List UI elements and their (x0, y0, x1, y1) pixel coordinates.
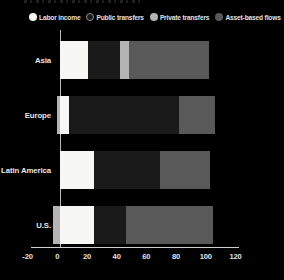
x-tick-label: 0 (46, 252, 68, 261)
x-tick-label: -20 (17, 252, 39, 261)
category-label-latin-america: Latin America (0, 151, 56, 189)
x-tick-label: 80 (165, 252, 187, 261)
x-tick-label: 60 (135, 252, 157, 261)
bar-segment-labor-income (60, 96, 69, 134)
x-tick-label: 100 (195, 252, 217, 261)
x-tick-label: 40 (106, 252, 128, 261)
bar-segment-asset-based-flows (160, 151, 211, 189)
bar-segment-public-transfers (94, 151, 159, 189)
bar-segment-labor-income (60, 151, 94, 189)
chart-screenshot: Labor incomePublic transfersPrivate tran… (0, 0, 284, 280)
bar-segment-labor-income (60, 41, 88, 79)
bar-segment-asset-based-flows (179, 96, 215, 134)
bar-segment-private-transfers (120, 41, 129, 79)
bar-segment-labor-income (60, 206, 94, 244)
category-label-u-s-: U.S. (0, 206, 56, 244)
x-tick-label: 120 (225, 252, 247, 261)
category-label-asia: Asia (0, 41, 56, 79)
category-label-europe: Europe (0, 96, 56, 134)
stacked-bar-plot: AsiaEuropeLatin AmericaU.S.-200204060801… (0, 0, 284, 280)
bar-segment-asset-based-flows (129, 41, 209, 79)
x-tick-label: 20 (76, 252, 98, 261)
x-axis-line (31, 247, 239, 248)
bar-segment-asset-based-flows (126, 206, 214, 244)
bar-segment-public-transfers (69, 96, 179, 134)
bar-segment-public-transfers (88, 41, 119, 79)
bar-segment-private-transfers (57, 96, 60, 134)
bar-segment-private-transfers (53, 206, 60, 244)
bar-segment-public-transfers (94, 206, 125, 244)
